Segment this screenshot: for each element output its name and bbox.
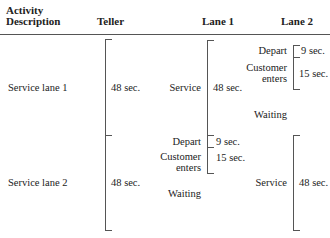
teller-time-2: 48 sec. <box>111 177 140 188</box>
lane1-tick-depart-end <box>207 147 214 148</box>
header-rule <box>0 34 330 35</box>
teller-tick-top <box>105 39 112 40</box>
lane1-customer-enters-label: Customer enters <box>160 151 201 173</box>
lane1-tick-enters-end <box>207 173 214 174</box>
lane2-service-tick-bottom <box>293 230 300 231</box>
lane2-service-tick-top <box>293 135 300 136</box>
header-lane1: Lane 1 <box>202 16 234 27</box>
lane1-depart-label: Depart <box>172 136 201 147</box>
lane2-enters-time: 15 sec. <box>299 68 328 79</box>
header-lane2: Lane 2 <box>281 16 313 27</box>
lane2-service-label: Service <box>256 177 288 188</box>
lane1-service-time: 48 sec. <box>213 82 242 93</box>
lane1-tick-top <box>207 40 214 41</box>
lane1-enters-line1: Customer <box>160 151 201 162</box>
lane1-tick-service-end <box>207 135 214 136</box>
lane1-waiting-label: Waiting <box>168 188 201 199</box>
header-teller: Teller <box>97 16 124 27</box>
lane2-enters-line1: Customer <box>246 62 287 73</box>
lane1-enters-line2: enters <box>160 162 201 173</box>
header-activity-line2: Description <box>6 16 60 27</box>
lane1-service-label: Service <box>170 82 202 93</box>
lane2-depart-time: 9 sec. <box>301 45 325 56</box>
lane2-service-bracket <box>293 135 294 231</box>
lane2-enters-line2: enters <box>246 73 287 84</box>
teller-tick-bottom <box>105 230 112 231</box>
activity-service-lane1: Service lane 1 <box>8 82 67 93</box>
lane1-timeline-bracket <box>207 40 208 174</box>
lane1-enters-time: 15 sec. <box>216 152 245 163</box>
lane2-customer-enters-label: Customer enters <box>246 62 287 84</box>
header-activity-description: Activity Description <box>6 5 60 27</box>
lane2-tick-enters-end <box>293 89 300 90</box>
teller-tick-mid <box>105 135 112 136</box>
lane2-depart-label: Depart <box>258 45 287 56</box>
lane2-tick-top <box>293 45 300 46</box>
lane2-service-time: 48 sec. <box>299 177 328 188</box>
activity-service-lane2: Service lane 2 <box>8 177 67 188</box>
teller-time-1: 48 sec. <box>111 82 140 93</box>
lane2-waiting-label: Waiting <box>254 109 287 120</box>
lane2-upper-bracket <box>293 45 294 90</box>
lane1-depart-time: 9 sec. <box>216 136 240 147</box>
lane2-tick-depart-end <box>293 57 300 58</box>
